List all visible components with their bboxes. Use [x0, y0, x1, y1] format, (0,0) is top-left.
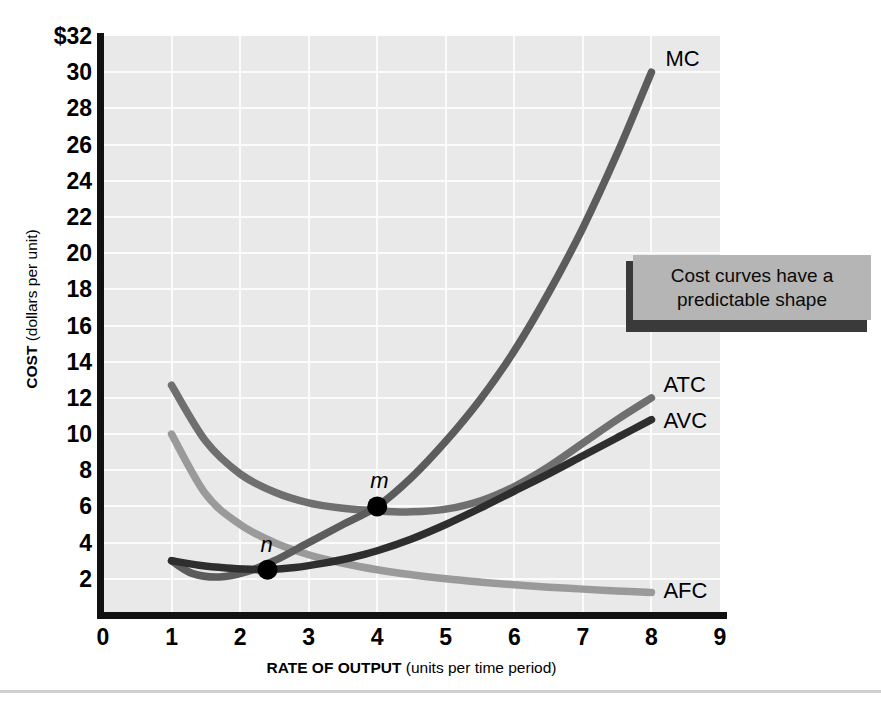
y-axis-tick-label: 28	[30, 97, 92, 120]
x-axis-tick-label: 2	[220, 624, 260, 651]
y-axis-title: COST (dollars per unit)	[23, 159, 41, 459]
y-axis-tick-label: 30	[30, 61, 92, 84]
x-axis-tick-label: 6	[494, 624, 534, 651]
y-axis-tick-label: 26	[30, 134, 92, 157]
curve-label-atc: ATC	[663, 372, 705, 398]
page-rule-divider	[0, 690, 881, 693]
y-axis-tick-label: 2	[30, 568, 92, 591]
y-axis-line	[97, 33, 104, 618]
curve-label-mc: MC	[665, 46, 699, 72]
callout-annotation: Cost curves have a predictable shape	[626, 255, 871, 328]
x-axis-tick-label: 5	[426, 624, 466, 651]
y-axis-tick-label: 8	[30, 459, 92, 482]
curve-label-afc: AFC	[663, 578, 707, 604]
y-axis-title-bold: COST	[23, 346, 40, 389]
x-axis-tick-label: 0	[83, 624, 123, 651]
curve-label-avc: AVC	[663, 408, 707, 434]
y-axis-tick-label: 4	[30, 532, 92, 555]
cost-curves-figure: $3230282624222018161412108642 0123456789…	[0, 0, 881, 701]
x-axis-tick-label: 9	[700, 624, 740, 651]
x-axis-tick-label: 3	[289, 624, 329, 651]
x-axis-line	[97, 612, 727, 619]
x-axis-tick-label: 8	[631, 624, 671, 651]
x-axis-title: RATE OF OUTPUT (units per time period)	[103, 659, 720, 677]
point-marker-n	[258, 560, 278, 580]
curve-mc	[172, 72, 652, 577]
point-label-n: n	[261, 532, 273, 558]
x-axis-tick-label: 4	[357, 624, 397, 651]
x-axis-tick-label: 1	[152, 624, 192, 651]
point-label-m: m	[370, 468, 388, 494]
curve-atc	[172, 385, 652, 512]
x-axis-title-bold: RATE OF OUTPUT	[267, 659, 402, 676]
callout-text: Cost curves have a predictable shape	[633, 255, 871, 320]
y-axis-title-sub: (dollars per unit)	[23, 229, 40, 345]
x-axis-tick-label: 7	[563, 624, 603, 651]
y-axis-tick-label: 6	[30, 495, 92, 518]
x-axis-title-sub: (units per time period)	[401, 659, 556, 676]
point-marker-m	[367, 496, 387, 516]
y-axis-tick-label: $32	[30, 25, 92, 48]
